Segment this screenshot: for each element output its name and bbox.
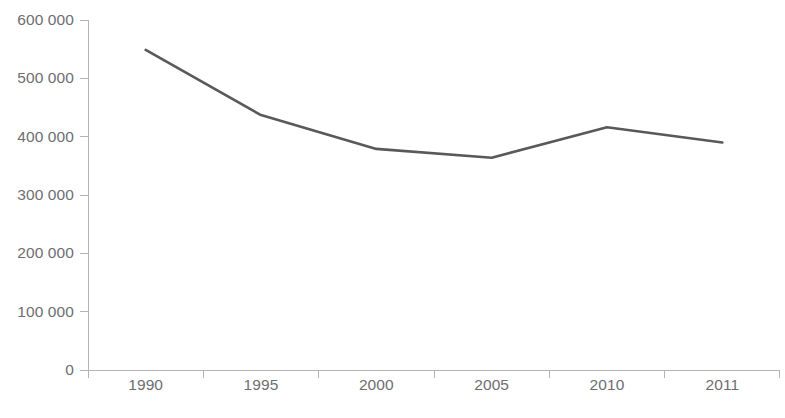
data-series-line — [146, 50, 723, 158]
y-tick-marks — [80, 21, 88, 371]
y-axis-tick-label: 100 000 — [0, 304, 74, 320]
y-axis-tick-label: 200 000 — [0, 246, 74, 262]
x-axis-tick-labels: 199019952000200520102011 — [0, 376, 785, 406]
x-axis-tick-label: 2000 — [359, 376, 394, 395]
x-axis-tick-label: 1990 — [128, 376, 163, 395]
y-axis-tick-label: 300 000 — [0, 187, 74, 203]
y-axis-tick-label: 600 000 — [0, 12, 74, 28]
line-chart: 0100 000200 000300 000400 000500 000600 … — [0, 0, 785, 418]
x-axis-tick-label: 2010 — [590, 376, 625, 395]
x-axis-tick-label: 2011 — [705, 376, 739, 395]
y-axis-tick-labels: 0100 000200 000300 000400 000500 000600 … — [0, 0, 74, 418]
y-axis-tick-label: 500 000 — [0, 71, 74, 87]
plot-area — [0, 0, 785, 418]
y-axis-tick-label: 400 000 — [0, 129, 74, 145]
x-axis-tick-label: 1995 — [244, 376, 279, 395]
x-axis-tick-label: 2005 — [474, 376, 509, 395]
